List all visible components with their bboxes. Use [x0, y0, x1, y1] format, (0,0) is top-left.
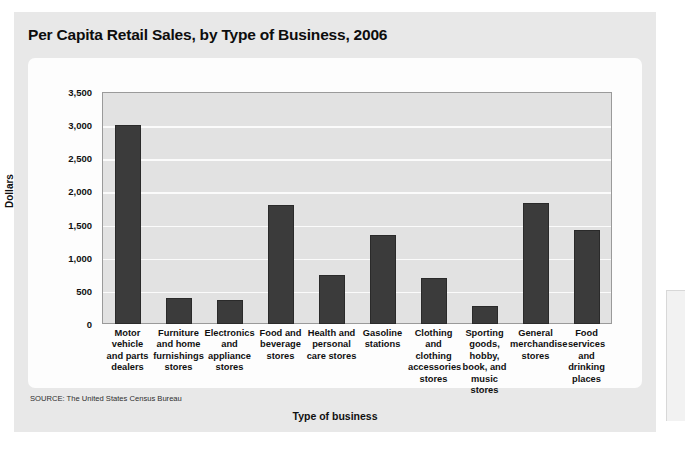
gridline — [103, 159, 611, 161]
y-tick-label: 2,500 — [68, 153, 92, 164]
source-note: SOURCE: The United States Census Bureau — [30, 394, 182, 403]
figure-panel: Per Capita Retail Sales, by Type of Busi… — [14, 12, 656, 432]
x-tick-label: Clothingandclothingaccessoriesstores — [408, 328, 459, 385]
gridline — [103, 259, 611, 261]
chart-card: 05001,0001,5002,0002,5003,0003,500 Dolla… — [28, 58, 642, 388]
y-tick-label: 3,500 — [68, 87, 92, 98]
gridline — [103, 126, 611, 128]
y-tick-label: 1,500 — [68, 219, 92, 230]
page-margin-strip — [666, 290, 685, 421]
gridline — [103, 292, 611, 294]
x-axis-title: Type of business — [28, 410, 642, 422]
y-tick-label: 500 — [76, 285, 92, 296]
page-title: Per Capita Retail Sales, by Type of Busi… — [28, 26, 387, 44]
y-tick-label: 2,000 — [68, 186, 92, 197]
x-tick-label: Food andbeveragestores — [255, 328, 306, 362]
x-tick-label: Motorvehicleand partsdealers — [102, 328, 153, 374]
y-axis-title: Dollars — [4, 174, 15, 208]
x-tick-label: Electronicsandappliancestores — [204, 328, 255, 374]
gridline — [103, 192, 611, 194]
plot-area — [102, 92, 612, 324]
y-tick-label: 3,000 — [68, 120, 92, 131]
x-tick-label: Furnitureand homefurnishingsstores — [153, 328, 204, 374]
gridline — [103, 226, 611, 228]
y-tick-label: 0 — [87, 319, 92, 330]
y-axis: 05001,0001,5002,0002,5003,0003,500 — [28, 92, 98, 324]
x-tick-label: Health andpersonalcare stores — [306, 328, 357, 362]
x-tick-label: Gasolinestations — [357, 328, 408, 351]
y-tick-label: 1,000 — [68, 252, 92, 263]
x-tick-label: Sportinggoods,hobby,book, andmusicstores — [459, 328, 510, 396]
x-tick-label: Foodservicesanddrinkingplaces — [561, 328, 612, 385]
x-tick-label: Generalmerchandisestores — [510, 328, 561, 362]
